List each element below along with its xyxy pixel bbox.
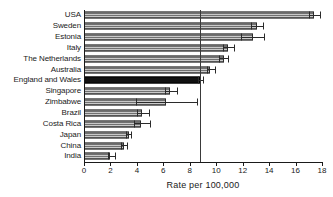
x-tick-label: 12 xyxy=(238,167,247,175)
whisker-cap-hi xyxy=(203,77,204,84)
bar-row: Sweden xyxy=(84,21,322,32)
category-label-usa: USA xyxy=(65,11,81,19)
bar-row: Japan xyxy=(84,129,322,140)
bar-china xyxy=(84,142,124,149)
x-tick-label: 6 xyxy=(161,167,165,175)
bar-row: Australia xyxy=(84,64,322,75)
bar-row: China xyxy=(84,140,322,151)
y-axis-line xyxy=(84,10,85,163)
whisker-cap-hi xyxy=(215,66,216,73)
bar-row: USA xyxy=(84,10,322,21)
bar-chart: USASwedenEstoniaItalyThe NetherlandsAust… xyxy=(0,0,333,197)
category-label-australia: Australia xyxy=(51,66,81,74)
x-tick-label: 2 xyxy=(108,167,112,175)
reference-line xyxy=(200,10,201,162)
bar-row: Zimbabwe xyxy=(84,97,322,108)
bar-costa-rica xyxy=(84,120,141,127)
bar-sweden xyxy=(84,23,257,30)
bar-row: Brazil xyxy=(84,108,322,119)
category-label-estonia: Estonia xyxy=(55,33,81,41)
bar-japan xyxy=(84,131,129,138)
category-label-singapore: Singapore xyxy=(45,87,81,95)
whisker-cap-hi xyxy=(131,131,132,138)
bar-estonia xyxy=(84,34,253,41)
whisker-cap-hi xyxy=(228,55,229,62)
x-tick-label: 8 xyxy=(188,167,192,175)
x-tick-label: 10 xyxy=(212,167,221,175)
bar-row: England and Wales xyxy=(84,75,322,86)
bar-row: Estonia xyxy=(84,32,322,43)
category-label-india: India xyxy=(64,152,81,160)
category-label-costa-rica: Costa Rica xyxy=(43,120,81,128)
bar-row: Costa Rica xyxy=(84,118,322,129)
bar-brazil xyxy=(84,110,142,117)
bar-usa xyxy=(84,12,314,19)
category-label-the-netherlands: The Netherlands xyxy=(23,55,81,63)
x-tick-label: 14 xyxy=(265,167,274,175)
bar-zimbabwe xyxy=(84,99,166,106)
whisker-cap-hi xyxy=(197,99,198,106)
category-label-brazil: Brazil xyxy=(62,109,81,117)
bar-row: India xyxy=(84,151,322,162)
x-axis-title: Rate per 100,000 xyxy=(84,180,322,190)
x-tick-label: 18 xyxy=(318,167,327,175)
bar-india xyxy=(84,153,110,160)
bar-row: Singapore xyxy=(84,86,322,97)
category-label-zimbabwe: Zimbabwe xyxy=(45,98,81,106)
category-label-england-and-wales: England and Wales xyxy=(14,76,81,84)
whisker-cap-hi xyxy=(149,110,150,117)
whisker-cap-hi xyxy=(115,153,116,160)
bar-australia xyxy=(84,66,210,73)
category-label-china: China xyxy=(61,142,81,150)
whisker-cap-hi xyxy=(320,12,321,19)
plot-area: USASwedenEstoniaItalyThe NetherlandsAust… xyxy=(84,10,322,162)
category-label-italy: Italy xyxy=(67,44,81,52)
x-tick-label: 4 xyxy=(135,167,139,175)
whisker-cap-hi xyxy=(150,120,151,127)
bar-england-and-wales xyxy=(84,77,200,84)
category-label-japan: Japan xyxy=(60,131,81,139)
whisker-cap-hi xyxy=(263,23,264,30)
x-axis-ticks: 024681012141618 xyxy=(84,163,322,179)
whisker-cap-hi xyxy=(177,88,178,95)
whisker-cap-hi xyxy=(127,142,128,149)
bar-row: Italy xyxy=(84,43,322,54)
bar-row: The Netherlands xyxy=(84,53,322,64)
category-label-sweden: Sweden xyxy=(53,22,81,30)
x-tick-label: 16 xyxy=(291,167,300,175)
bar-italy xyxy=(84,44,228,51)
whisker-cap-hi xyxy=(234,44,235,51)
x-tick-label: 0 xyxy=(82,167,86,175)
bar-the-netherlands xyxy=(84,55,224,62)
bar-singapore xyxy=(84,88,170,95)
whisker-cap-hi xyxy=(264,34,265,41)
